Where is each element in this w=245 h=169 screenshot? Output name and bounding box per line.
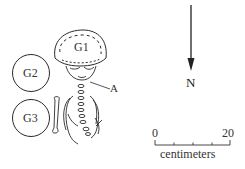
north-label: N: [186, 76, 195, 89]
scale-bar: [155, 140, 230, 145]
label-g1: G1: [74, 41, 89, 53]
scale-start-label: 0: [152, 127, 158, 139]
label-g3: G3: [23, 112, 38, 124]
burial-drawing: [0, 0, 245, 169]
label-g2: G2: [23, 67, 38, 79]
label-a: A: [110, 83, 118, 94]
ribs-and-bones: [53, 96, 102, 144]
scale-unit-label: centimeters: [160, 148, 215, 160]
north-arrow-icon: [188, 5, 195, 71]
skull: [66, 66, 96, 80]
scale-end-label: 20: [222, 127, 234, 139]
pointer-line-a: [90, 82, 110, 89]
vertebrae: [78, 84, 91, 135]
